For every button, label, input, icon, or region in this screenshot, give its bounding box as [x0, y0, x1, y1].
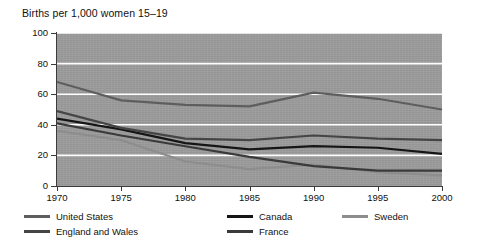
x-tick: [57, 187, 58, 191]
legend-item-sweden[interactable]: Sweden: [342, 211, 408, 222]
y-tick-label: 100: [4, 27, 48, 38]
y-tick: [51, 33, 56, 34]
legend-swatch-icon: [342, 215, 368, 218]
y-tick-label: 40: [4, 119, 48, 130]
x-tick: [121, 187, 122, 191]
series-line-canada: [57, 119, 442, 154]
x-tick-label: 1990: [303, 192, 324, 203]
legend-item-united-states[interactable]: United States: [24, 211, 113, 222]
legend-label: England and Wales: [56, 226, 138, 237]
y-tick: [51, 155, 56, 156]
series-line-sweden: [57, 131, 442, 175]
x-tick: [314, 187, 315, 191]
y-tick-label: 0: [4, 180, 48, 191]
x-tick-label: 1980: [175, 192, 196, 203]
x-tick-label: 2000: [431, 192, 452, 203]
x-tick: [185, 187, 186, 191]
legend-label: Canada: [259, 211, 292, 222]
legend-item-canada[interactable]: Canada: [227, 211, 292, 222]
y-tick-label: 60: [4, 88, 48, 99]
x-tick: [378, 187, 379, 191]
plot-lines: [57, 33, 442, 186]
legend-item-england-and-wales[interactable]: England and Wales: [24, 226, 138, 237]
legend-swatch-icon: [24, 230, 50, 233]
y-tick-label: 20: [4, 149, 48, 160]
series-line-united-states: [57, 82, 442, 110]
y-tick: [51, 186, 56, 187]
y-axis-labels: 020406080100: [0, 0, 48, 241]
x-tick: [442, 187, 443, 191]
legend-label: Sweden: [374, 211, 408, 222]
x-tick: [250, 187, 251, 191]
series-line-france: [57, 123, 442, 170]
y-tick: [51, 94, 56, 95]
plot-area: [57, 33, 442, 186]
legend-item-france[interactable]: France: [227, 226, 289, 237]
legend-swatch-icon: [227, 230, 253, 233]
y-tick: [51, 125, 56, 126]
legend-swatch-icon: [24, 215, 50, 218]
y-axis: [56, 32, 57, 187]
x-tick-label: 1975: [111, 192, 132, 203]
y-tick-label: 80: [4, 58, 48, 69]
x-tick-label: 1985: [239, 192, 260, 203]
chart-figure: Births per 1,000 women 15–19 02040608010…: [0, 0, 478, 241]
x-tick-label: 1970: [46, 192, 67, 203]
x-tick-label: 1995: [367, 192, 388, 203]
legend-swatch-icon: [227, 215, 253, 218]
legend-label: United States: [56, 211, 113, 222]
y-tick: [51, 64, 56, 65]
chart-legend: United StatesCanadaSwedenEngland and Wal…: [24, 211, 474, 241]
legend-label: France: [259, 226, 289, 237]
